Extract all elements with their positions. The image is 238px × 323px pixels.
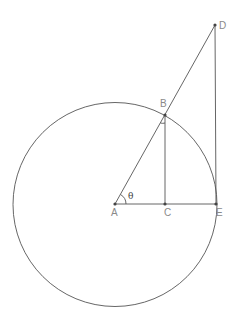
label-B: B [160,98,167,109]
point-B [163,113,166,116]
point-C [163,202,166,205]
label-D: D [219,20,226,31]
geometry-diagram: A B C D E θ [0,0,238,323]
point-D [213,23,216,26]
point-E [214,202,217,205]
label-C: C [164,207,171,218]
segment-DE [215,25,216,204]
label-E: E [216,207,223,218]
label-A: A [111,207,118,218]
angle-arc-theta [121,195,127,205]
label-theta: θ [128,191,133,201]
point-A [113,202,116,205]
